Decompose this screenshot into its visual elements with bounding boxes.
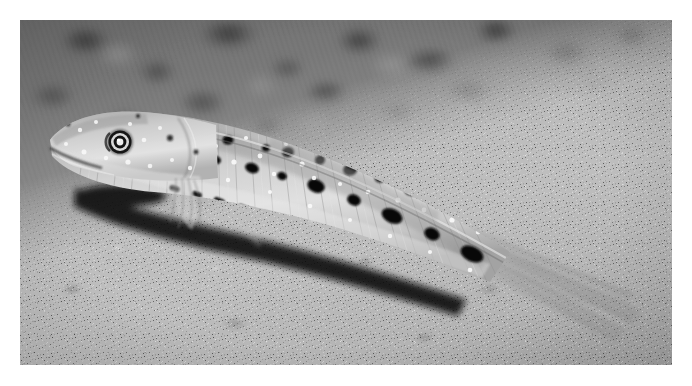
photo-image <box>20 20 672 365</box>
photo-grain <box>20 20 672 365</box>
photograph-page <box>0 0 692 386</box>
